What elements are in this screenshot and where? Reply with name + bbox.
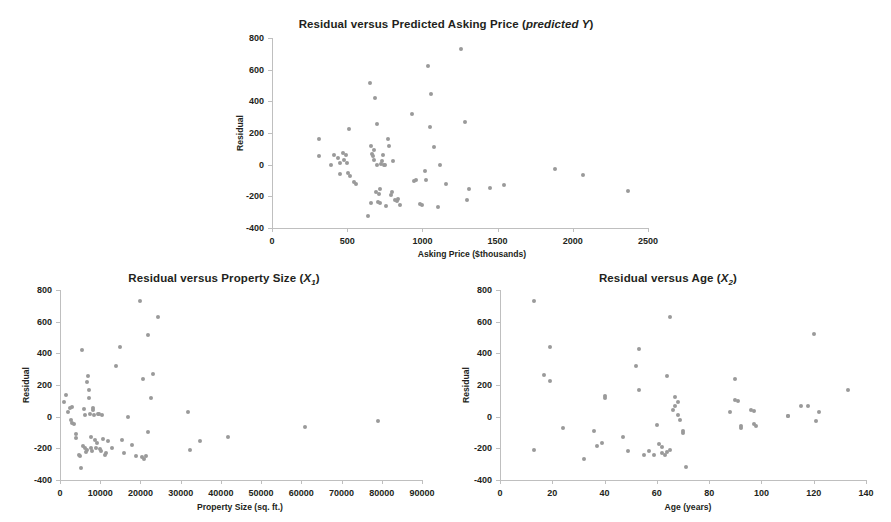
scatter-point xyxy=(410,112,414,116)
scatter-point xyxy=(386,137,390,141)
x-axis-tick xyxy=(261,480,262,484)
scatter-point xyxy=(786,414,790,418)
x-axis-tick-label: 100 xyxy=(754,488,769,498)
scatter-point xyxy=(118,345,122,349)
scatter-point xyxy=(542,373,546,377)
scatter-point xyxy=(82,407,86,411)
y-axis-tick-label: 800 xyxy=(477,285,492,295)
y-axis-title-residual-right: Residual xyxy=(461,367,471,403)
scatter-point xyxy=(673,395,677,399)
x-axis-tick-label: 0 xyxy=(269,236,274,246)
y-axis-tick-label: 0 xyxy=(47,412,52,422)
scatter-point xyxy=(317,137,321,141)
scatter-point xyxy=(86,374,90,378)
scatter-point xyxy=(87,388,91,392)
scatter-point xyxy=(438,163,442,167)
scatter-point xyxy=(100,413,104,417)
scatter-point xyxy=(424,178,428,182)
y-axis-tick xyxy=(496,417,500,418)
y-axis-tick xyxy=(268,70,272,71)
scatter-point xyxy=(62,400,66,404)
x-axis-tick xyxy=(342,480,343,484)
y-axis-tick xyxy=(56,417,60,418)
y-axis-tick-label: 0 xyxy=(487,412,492,422)
scatter-point xyxy=(156,315,160,319)
scatter-point xyxy=(89,435,93,439)
x-axis-tick-label: 10000 xyxy=(88,488,113,498)
scatter-point xyxy=(146,430,150,434)
x-axis-tick-label: 40000 xyxy=(208,488,233,498)
chart-title-prefix: Residual versus Predicted Asking Price ( xyxy=(299,18,526,30)
scatter-point xyxy=(369,201,373,205)
scatter-point xyxy=(110,446,114,450)
scatter-point xyxy=(676,413,680,417)
x-axis-tick xyxy=(605,480,606,484)
scatter-point xyxy=(104,451,108,455)
scatter-point xyxy=(626,449,630,453)
x-axis-tick xyxy=(221,480,222,484)
scatter-point xyxy=(368,81,372,85)
chart-title-italic-var: predicted Y xyxy=(526,18,590,30)
x-axis-tick xyxy=(573,228,574,232)
scatter-point xyxy=(752,409,756,413)
scatter-point xyxy=(85,380,89,384)
y-axis-tick xyxy=(496,322,500,323)
scatter-point xyxy=(684,465,688,469)
y-axis-tick xyxy=(268,133,272,134)
scatter-point xyxy=(78,454,82,458)
y-axis-tick-label: 800 xyxy=(37,285,52,295)
y-axis-tick xyxy=(56,322,60,323)
y-axis-tick-label: 200 xyxy=(249,128,264,138)
scatter-point xyxy=(420,203,424,207)
scatter-point xyxy=(668,448,672,452)
scatter-point xyxy=(488,186,492,190)
y-axis-tick xyxy=(56,448,60,449)
scatter-point xyxy=(626,189,630,193)
x-axis-title-asking-price: Asking Price ($thousands) xyxy=(418,249,526,259)
scatter-point xyxy=(668,315,672,319)
y-axis-tick-label: -400 xyxy=(246,223,264,233)
scatter-point xyxy=(426,64,430,68)
x-axis-tick xyxy=(272,228,273,232)
scatter-point xyxy=(134,454,138,458)
scatter-point xyxy=(396,197,400,201)
x-axis-tick xyxy=(552,480,553,484)
scatter-point xyxy=(83,413,87,417)
x-axis-tick-label: 0 xyxy=(497,488,502,498)
scatter-point xyxy=(739,426,743,430)
scatter-point xyxy=(846,388,850,392)
y-axis-tick-label: 600 xyxy=(37,317,52,327)
x-axis-tick-label: 70000 xyxy=(329,488,354,498)
scatter-point xyxy=(532,299,536,303)
y-axis-tick-label: 400 xyxy=(37,348,52,358)
scatter-point xyxy=(90,449,94,453)
scatter-point xyxy=(553,167,557,171)
scatter-point xyxy=(126,415,130,419)
scatter-point xyxy=(736,399,740,403)
x-axis-tick xyxy=(866,480,867,484)
chart-title-age: Residual versus Age (X2) xyxy=(456,272,880,287)
scatter-point xyxy=(621,435,625,439)
chart-title-variable: X xyxy=(303,272,311,284)
scatter-point xyxy=(188,448,192,452)
scatter-point xyxy=(95,441,99,445)
scatter-point xyxy=(428,125,432,129)
x-axis-tick xyxy=(422,228,423,232)
scatter-point xyxy=(91,406,95,410)
y-axis-tick xyxy=(268,165,272,166)
scatter-point xyxy=(383,163,387,167)
y-axis-tick-label: 800 xyxy=(249,33,264,43)
scatter-point xyxy=(226,435,230,439)
scatter-point xyxy=(561,426,565,430)
scatter-point xyxy=(74,436,78,440)
scatter-point xyxy=(671,408,675,412)
x-axis-line xyxy=(272,228,648,229)
x-axis-tick xyxy=(657,480,658,484)
scatter-point xyxy=(344,153,348,157)
scatter-point xyxy=(303,425,307,429)
x-axis-tick-label: 90000 xyxy=(409,488,434,498)
x-axis-tick xyxy=(100,480,101,484)
scatter-point xyxy=(354,182,358,186)
x-axis-tick-label: 1000 xyxy=(412,236,432,246)
scatter-point xyxy=(398,203,402,207)
